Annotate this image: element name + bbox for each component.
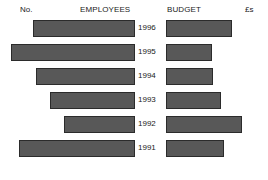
budget-bar <box>166 44 212 61</box>
plot-area: 199619951994199319921991 <box>0 18 268 180</box>
year-label: 1994 <box>138 71 164 81</box>
employees-panel-title: EMPLOYEES <box>80 5 130 15</box>
year-label: 1993 <box>138 95 164 105</box>
budget-bar <box>166 68 213 85</box>
employees-bar <box>64 116 135 133</box>
chart-row: 1992 <box>0 114 268 138</box>
budget-bar <box>166 92 221 109</box>
chart-row: 1994 <box>0 66 268 90</box>
chart-row: 1991 <box>0 138 268 162</box>
budget-unit-label: £s <box>245 5 253 15</box>
chart-row: 1995 <box>0 42 268 66</box>
butterfly-chart: No. EMPLOYEES BUDGET £s 1996199519941993… <box>0 0 268 180</box>
chart-row: 1993 <box>0 90 268 114</box>
year-label: 1992 <box>138 119 164 129</box>
budget-bar <box>166 140 224 157</box>
employees-bar <box>36 68 135 85</box>
year-label: 1996 <box>138 23 164 33</box>
budget-bar <box>166 20 232 37</box>
year-label: 1991 <box>138 143 164 153</box>
employees-bar <box>11 44 135 61</box>
chart-header: No. EMPLOYEES BUDGET £s <box>0 0 268 18</box>
year-label: 1995 <box>138 47 164 57</box>
budget-panel-title: BUDGET <box>167 5 201 15</box>
employees-unit-label: No. <box>20 5 32 15</box>
budget-bar <box>166 116 242 133</box>
employees-bar <box>50 92 135 109</box>
employees-bar <box>19 140 135 157</box>
employees-bar <box>33 20 135 37</box>
chart-row: 1996 <box>0 18 268 42</box>
